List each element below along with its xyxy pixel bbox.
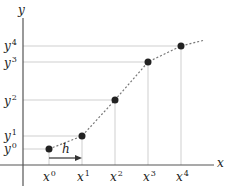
diagram-canvas [0,0,230,186]
y-tick-3: y3 [4,56,17,69]
x-tick-0: x0 [43,170,56,183]
x-tick-2: x2 [110,170,123,183]
arrowhead-icon [75,155,82,161]
dotted-curve [49,40,205,149]
x-tick-1: x1 [77,170,90,183]
y-tick-4: y4 [4,39,17,52]
x-tick-4: x4 [176,170,189,183]
x-axis-label: x [217,157,224,169]
y-axis-label: y [18,4,25,16]
y-tick-0: y0 [4,142,17,155]
step-label: h [62,143,70,155]
x-tick-3: x3 [143,170,156,183]
y-tick-2: y2 [4,94,17,107]
